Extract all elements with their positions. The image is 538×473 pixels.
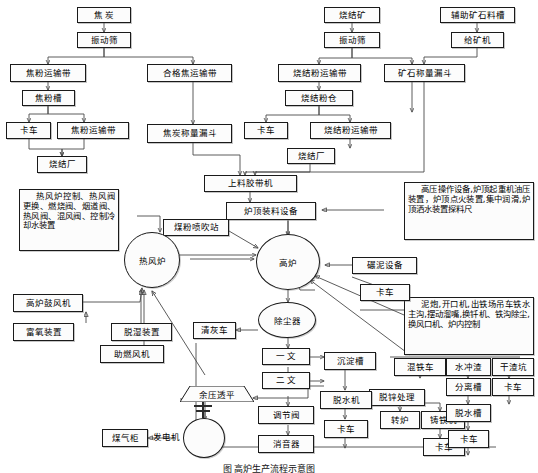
node-ash-truck[interactable]: 清灰车 (193, 322, 236, 339)
node-dewater-machine[interactable]: 脱水机 (320, 391, 372, 409)
node-coke-powder-belt-1[interactable]: 焦粉运输带 (10, 64, 86, 82)
node-dry-slag-pit[interactable]: 干渣坑 (492, 358, 534, 376)
node-silencer[interactable]: 消音器 (258, 435, 314, 453)
node-bf-blower[interactable]: 高炉鼓风机 (13, 294, 83, 312)
node-qualified-coke-belt[interactable]: 合格焦运输带 (147, 64, 232, 82)
node-coke-powder-bin[interactable]: 焦粉槽 (22, 90, 75, 106)
node-coke-weigh-hopper[interactable]: 焦炭称量漏斗 (147, 124, 232, 143)
node-mud-truck[interactable]: 卡车 (360, 284, 410, 301)
node-converter[interactable]: 转炉 (380, 411, 420, 429)
node-separation-tank[interactable]: 分离槽 (446, 378, 491, 396)
node-sinter-powder-belt-1[interactable]: 烧结粉运输带 (278, 64, 361, 82)
node-mud-equipment[interactable]: 碾泥设备 (352, 257, 417, 274)
node-coke-sinter-plant[interactable]: 烧结厂 (37, 156, 87, 173)
node-venturi-1[interactable]: 一 文 (262, 348, 310, 365)
node-sinter-ore[interactable]: 烧结矿 (324, 7, 380, 23)
annotation-furnace-top-note: 高压操作设备,炉顶起重机油压装置，炉顶点火装置,集中润滑,炉顶洒水装置探料尺 (404, 182, 534, 240)
node-sinter-screen[interactable]: 振动筛 (324, 32, 380, 48)
node-sinter-truck[interactable]: 卡车 (244, 122, 288, 139)
node-dewater-tank[interactable]: 脱水槽 (446, 404, 491, 422)
node-combustion-fan[interactable]: 助燃风机 (100, 345, 164, 363)
node-generator-label: 发电机 (146, 430, 186, 442)
node-sinter-plant[interactable]: 烧结厂 (287, 148, 335, 164)
node-top-charging-equipment[interactable]: 炉顶装料设备 (226, 202, 316, 220)
annotation-hot-blast-stove-note: 热风炉控制、热风阀更换、燃烧阀、烟道阀、热风阀、混风阀、控制冷却水装置 (19, 189, 119, 251)
node-ore-feeder[interactable]: 给矿机 (451, 32, 504, 48)
node-venturi-2[interactable]: 二 文 (262, 372, 310, 389)
node-coke-raw[interactable]: 焦 炭 (77, 7, 131, 23)
node-hot-blast-stove[interactable]: 热风炉 (124, 232, 180, 288)
annotation-tapping-note: 泥炮,开口机,出铁场吊车铁水主沟,摆动溜嘴,换钎机、铁沟除尘,换风口机、炉内控制 (404, 297, 534, 355)
node-dehumid-device[interactable]: 脱湿装置 (111, 323, 172, 341)
node-aux-ore-trough[interactable]: 辅助矿石料槽 (440, 7, 515, 23)
node-coal-injection[interactable]: 煤粉喷吹站 (163, 219, 229, 236)
flowchart-canvas: 焦 炭 振动筛 焦粉运输带 焦粉槽 卡车 焦粉运输带 烧结厂 合格焦运输带 焦炭… (0, 0, 538, 473)
node-gas-holder[interactable]: 煤气柜 (102, 429, 148, 447)
node-generator[interactable] (183, 418, 225, 458)
node-dezinc[interactable]: 脱锌处理 (369, 389, 425, 406)
node-dewater-truck[interactable]: 卡车 (324, 420, 368, 438)
node-charging-belt[interactable]: 上料胶带机 (204, 175, 297, 192)
node-water-slag[interactable]: 水冲渣 (446, 358, 491, 376)
node-settling-tank[interactable]: 沉淀槽 (324, 352, 376, 370)
node-trt-turbine-label: 余压透平 (199, 388, 235, 400)
node-torpedo-car[interactable]: 混铁车 (394, 358, 446, 376)
node-oxygen-device[interactable]: 富氧装置 (13, 323, 74, 341)
node-ore-weigh-hopper[interactable]: 矿石称量漏斗 (384, 64, 465, 82)
trt-coupling-top (194, 405, 212, 407)
figure-caption: 图 高炉生产流程示意图 (0, 462, 538, 473)
node-blast-furnace[interactable]: 高炉 (256, 234, 320, 290)
node-dust-catcher[interactable]: 除尘器 (258, 302, 316, 338)
trt-coupling-bottom (196, 410, 210, 412)
node-sinter-powder-belt-2[interactable]: 烧结粉运输带 (310, 122, 391, 139)
node-coke-screen[interactable]: 振动筛 (77, 32, 131, 48)
node-slag-truck[interactable]: 卡车 (448, 430, 489, 448)
node-dry-slag-truck[interactable]: 卡车 (492, 378, 534, 396)
node-sinter-powder-bin[interactable]: 烧结粉仓 (285, 90, 353, 106)
node-trt-turbine[interactable]: 余压透平 (180, 386, 254, 402)
node-coke-truck[interactable]: 卡车 (6, 122, 51, 139)
node-coke-powder-belt-2[interactable]: 焦粉运输带 (57, 122, 129, 139)
node-control-valve[interactable]: 调节阀 (258, 406, 314, 424)
